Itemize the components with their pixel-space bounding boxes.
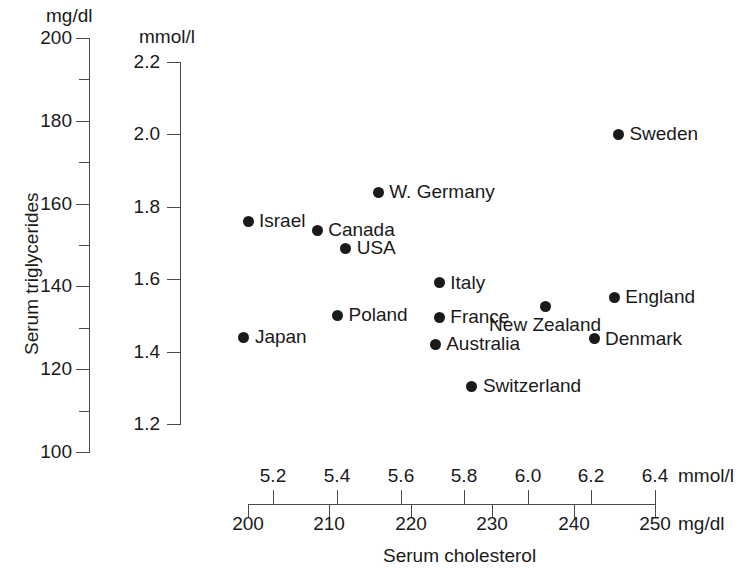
- data-point-label: England: [625, 287, 695, 306]
- data-point: [434, 312, 445, 323]
- data-point-label: Japan: [255, 327, 307, 346]
- data-point: [609, 292, 620, 303]
- x-axis-secondary-tick: [591, 490, 592, 504]
- x-axis-primary-tick-label: 230: [462, 514, 522, 533]
- x-axis-primary-tick-label: 210: [299, 514, 359, 533]
- data-point-label: Australia: [446, 334, 520, 353]
- x-axis-secondary-tick: [528, 490, 529, 504]
- x-axis-secondary-tick: [401, 490, 402, 504]
- y-axis-primary-tick-label: 180: [14, 111, 72, 130]
- x-axis-primary-tick-label: 250: [625, 514, 685, 533]
- y-axis-secondary-line: [180, 62, 181, 425]
- y-axis-primary-tick-label: 100: [14, 442, 72, 461]
- scatter-plot-figure: mg/dl 100120140160180200 mmol/l 2.22.01.…: [0, 0, 739, 575]
- x-axis-secondary-tick: [655, 490, 656, 504]
- y-axis-secondary-unit-label: mmol/l: [139, 27, 195, 46]
- y-axis-primary-tick: [76, 121, 89, 122]
- x-axis-secondary-tick-label: 6.2: [561, 466, 621, 485]
- y-axis-primary-tick-label: 120: [14, 359, 72, 378]
- y-axis-secondary-tick-label: 2.0: [108, 124, 160, 143]
- y-axis-primary-line: [89, 38, 90, 453]
- data-point-label: Italy: [450, 273, 485, 292]
- y-axis-secondary-tick: [167, 279, 180, 280]
- y-axis-primary-tick: [79, 411, 89, 412]
- y-axis-primary-tick-label: 200: [14, 28, 72, 47]
- y-axis-primary-tick: [79, 328, 89, 329]
- data-point: [238, 332, 249, 343]
- y-axis-secondary-tick: [167, 424, 180, 425]
- x-axis-primary-tick-label: 240: [544, 514, 604, 533]
- y-axis-secondary-tick-label: 1.6: [108, 269, 160, 288]
- y-axis-primary-tick: [79, 162, 89, 163]
- data-point-label: Israel: [259, 211, 305, 230]
- x-axis-primary-tick-label: 200: [218, 514, 278, 533]
- y-axis-secondary-tick: [167, 62, 180, 63]
- y-axis-secondary-tick: [167, 134, 180, 135]
- data-point: [430, 339, 441, 350]
- y-axis-primary-unit-label: mg/dl: [46, 6, 92, 25]
- x-axis-primary-tick-label: 220: [381, 514, 441, 533]
- y-axis-primary-tick: [76, 204, 89, 205]
- data-point-label: W. Germany: [389, 182, 495, 201]
- y-axis-secondary-tick-label: 1.8: [108, 197, 160, 216]
- data-point-label: Poland: [349, 305, 408, 324]
- x-axis-secondary-tick-label: 5.4: [307, 466, 367, 485]
- data-point: [589, 333, 600, 344]
- data-point: [466, 381, 477, 392]
- data-point: [373, 187, 384, 198]
- x-axis-primary-unit-label: mg/dl: [678, 514, 724, 533]
- data-point: [243, 216, 254, 227]
- y-axis-secondary-tick: [167, 352, 180, 353]
- x-axis-secondary-tick-label: 6.0: [498, 466, 558, 485]
- data-point-label: Denmark: [605, 329, 682, 348]
- y-axis-primary-tick: [76, 38, 89, 39]
- y-axis-primary-tick: [76, 286, 89, 287]
- data-point: [340, 243, 351, 254]
- x-axis-secondary-tick: [464, 490, 465, 504]
- x-axis-secondary-tick-label: 6.4: [625, 466, 685, 485]
- y-axis-secondary-tick-label: 1.2: [108, 414, 160, 433]
- y-axis-secondary-tick: [167, 207, 180, 208]
- data-point-label: Sweden: [629, 124, 698, 143]
- data-point: [312, 225, 323, 236]
- x-axis-secondary-tick-label: 5.2: [243, 466, 303, 485]
- x-axis-secondary-unit-label: mmol/l: [678, 466, 734, 485]
- y-axis-primary-tick: [79, 79, 89, 80]
- data-point: [434, 277, 445, 288]
- x-axis-secondary-tick: [337, 490, 338, 504]
- data-point: [540, 301, 551, 312]
- data-point: [332, 310, 343, 321]
- y-axis-primary-tick: [79, 245, 89, 246]
- y-axis-secondary-tick-label: 2.2: [108, 52, 160, 71]
- data-point: [613, 129, 624, 140]
- data-point-label: Switzerland: [483, 376, 581, 395]
- x-axis-secondary-tick-label: 5.6: [371, 466, 431, 485]
- x-axis-line: [248, 504, 656, 505]
- y-axis-primary-tick: [76, 452, 89, 453]
- data-point-label: France: [450, 307, 509, 326]
- x-axis-secondary-tick-label: 5.8: [434, 466, 494, 485]
- y-axis-title: Serum triglycerides: [22, 192, 41, 355]
- y-axis-primary-tick: [76, 369, 89, 370]
- y-axis-secondary-tick-label: 1.4: [108, 342, 160, 361]
- data-point-label: USA: [357, 238, 396, 257]
- x-axis-secondary-tick: [273, 490, 274, 504]
- x-axis-title: Serum cholesterol: [383, 546, 536, 565]
